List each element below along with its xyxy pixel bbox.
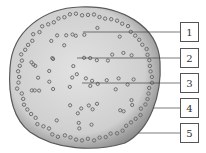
label-box-3: 3 [180,73,199,93]
label-number: 3 [186,78,192,89]
cross-section-diagram [0,0,206,153]
label-box-4: 4 [180,98,199,118]
label-box-1: 1 [180,22,199,42]
label-number: 5 [186,128,192,139]
label-number: 2 [186,53,192,64]
label-number: 1 [186,27,192,38]
label-box-2: 2 [180,48,199,68]
label-number: 4 [186,103,192,114]
label-box-5: 5 [180,123,199,143]
